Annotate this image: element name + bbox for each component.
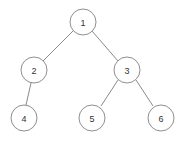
tree-node-2[interactable]: 2 — [21, 57, 47, 83]
tree-node-1[interactable]: 1 — [70, 9, 96, 35]
node-circle-3 — [114, 57, 140, 83]
tree-node-6[interactable]: 6 — [148, 105, 174, 131]
node-circle-4 — [11, 105, 37, 131]
tree-node-5[interactable]: 5 — [79, 105, 105, 131]
tree-node-4[interactable]: 4 — [11, 105, 37, 131]
node-circle-6 — [148, 105, 174, 131]
node-circle-5 — [79, 105, 105, 131]
binary-tree-diagram: 1 2 3 4 5 6 — [0, 0, 184, 144]
node-circle-1 — [70, 9, 96, 35]
tree-node-3[interactable]: 3 — [114, 57, 140, 83]
node-circle-2 — [21, 57, 47, 83]
